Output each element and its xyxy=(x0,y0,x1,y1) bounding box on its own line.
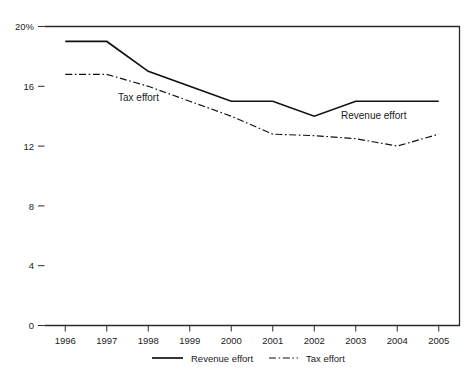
y-tick-label-0: 0 xyxy=(29,320,34,331)
legend-label-revenue-effort: Revenue effort xyxy=(191,353,254,364)
y-axis-labels: 20% 16 12 8 4 0 xyxy=(15,21,35,331)
y-tick-label-4: 4 xyxy=(29,260,34,271)
annotation-tax-effort: Tax effort xyxy=(118,92,159,103)
chart-canvas: 20% 16 12 8 4 0 199619971998199920002001… xyxy=(0,0,471,380)
x-axis-ticks xyxy=(65,326,439,332)
x-tick-label-2001: 2001 xyxy=(262,335,283,346)
x-tick-label-2000: 2000 xyxy=(221,335,242,346)
y-axis-ticks xyxy=(38,27,45,326)
chart-legend: Revenue effort Tax effort xyxy=(152,353,345,364)
x-tick-label-1998: 1998 xyxy=(138,335,159,346)
y-tick-label-20: 20% xyxy=(15,21,35,32)
x-tick-label-2004: 2004 xyxy=(387,335,408,346)
x-tick-label-2002: 2002 xyxy=(304,335,325,346)
x-tick-label-2005: 2005 xyxy=(428,335,449,346)
x-tick-label-1997: 1997 xyxy=(96,335,117,346)
y-tick-label-8: 8 xyxy=(29,201,34,212)
frame-path xyxy=(45,27,460,326)
plot-frame xyxy=(45,27,460,326)
x-tick-label-1996: 1996 xyxy=(55,335,76,346)
x-axis-labels: 1996199719981999200020012002200320042005 xyxy=(55,335,450,346)
legend-label-tax-effort: Tax effort xyxy=(306,353,345,364)
x-tick-label-1999: 1999 xyxy=(179,335,200,346)
x-tick-label-2003: 2003 xyxy=(345,335,366,346)
y-tick-label-16: 16 xyxy=(23,81,34,92)
y-tick-label-12: 12 xyxy=(23,141,34,152)
chart-annotations: Tax effort Revenue effort xyxy=(118,92,407,121)
annotation-revenue-effort: Revenue effort xyxy=(341,110,407,121)
